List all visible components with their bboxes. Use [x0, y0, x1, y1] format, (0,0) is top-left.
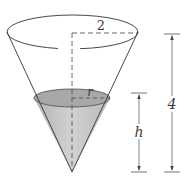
cone-figure: 2 r h 4	[0, 0, 187, 189]
cone-rim-front-left	[7, 32, 58, 49]
top-radius-label: 2	[97, 18, 105, 33]
cone-rim-front-right	[80, 32, 138, 49]
h-arrow-down-icon	[137, 166, 140, 171]
total-arrow-down-icon	[170, 166, 173, 171]
total-height-label: 4	[167, 96, 177, 112]
total-arrow-up-icon	[170, 35, 173, 40]
cone-rim-back	[7, 15, 138, 32]
h-label: h	[134, 124, 143, 140]
cone-diagram: 2 r h 4	[0, 0, 187, 189]
h-arrow-up-icon	[137, 94, 140, 99]
